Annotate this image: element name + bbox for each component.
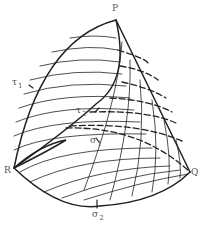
sigma2-subscript: 2 xyxy=(99,214,103,222)
curve-label-sigma1: σ1 xyxy=(90,136,102,145)
curve-label-tau1: τ1 xyxy=(12,78,22,87)
edge-PQ xyxy=(116,20,190,172)
diagram-canvas: P R Q τ1 τ2 σ1 σ2 xyxy=(0,0,204,226)
inner-curve-P xyxy=(14,20,120,168)
tau2-subscript: 2 xyxy=(82,110,86,118)
tau2-symbol: τ xyxy=(76,105,81,115)
surface-drawing xyxy=(0,0,204,226)
curve-label-tau2: τ2 xyxy=(76,106,86,115)
vertex-label-p: P xyxy=(112,4,118,13)
vertex-label-r: R xyxy=(4,166,11,175)
sigma2-symbol: σ xyxy=(92,209,98,219)
vertex-label-q: Q xyxy=(191,168,198,177)
curve-label-sigma2: σ2 xyxy=(92,210,104,219)
tau1-subscript: 1 xyxy=(18,82,22,90)
sigma1-symbol: σ xyxy=(90,135,96,145)
sigma1-subscript: 1 xyxy=(97,140,101,148)
inner-curve-R xyxy=(14,140,66,168)
radial-lines xyxy=(84,42,181,200)
tau1-symbol: τ xyxy=(12,77,17,87)
